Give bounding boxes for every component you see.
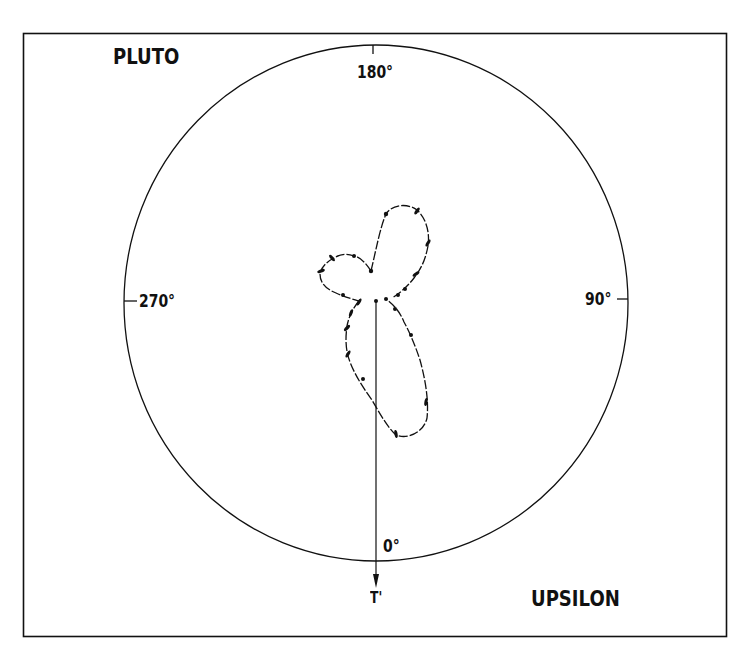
- trajectory-upper-lobe: [371, 205, 429, 298]
- angle-label-270: 270°: [139, 293, 175, 310]
- angle-label-90: 90°: [585, 291, 611, 308]
- label-upsilon: UPSILON: [531, 588, 620, 610]
- angle-label-0: 0°: [383, 538, 400, 555]
- diagram-canvas: PLUTO 180° 270° 90° 0° T' UPSILON: [0, 0, 744, 660]
- outer-frame: [24, 34, 727, 637]
- trajectory-lower-lobe: [346, 299, 428, 436]
- vector-label-t-prime: T': [370, 591, 382, 606]
- trajectory-left-lobe: [320, 254, 371, 301]
- vector-arrowhead-icon: [373, 574, 379, 588]
- polar-diagram: [0, 0, 744, 660]
- planet-label-pluto: PLUTO: [113, 46, 179, 68]
- angle-label-180: 180°: [357, 64, 393, 81]
